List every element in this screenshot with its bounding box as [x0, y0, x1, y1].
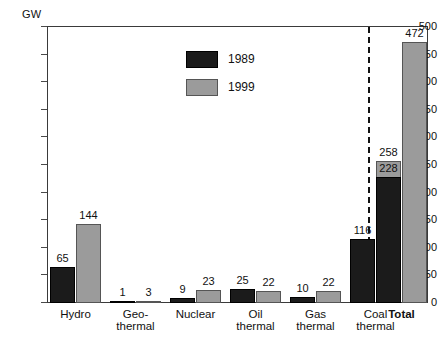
bar-1999-nuclear	[196, 290, 221, 303]
legend-item-1999: 1999	[186, 76, 255, 98]
bar-1999-hydro	[76, 224, 101, 303]
black-swatch-icon	[186, 51, 218, 68]
y-axis-tick	[41, 192, 47, 193]
y-axis-tick	[41, 54, 47, 55]
bar-1999-total	[402, 42, 427, 303]
bar-1999-oilthermal	[256, 291, 281, 303]
bar-1989-coalthermal	[350, 239, 375, 303]
gray-swatch-icon	[186, 79, 218, 96]
legend-label-1989: 1989	[228, 52, 255, 66]
bar-1989-nuclear	[170, 298, 195, 303]
y-axis-tick	[41, 136, 47, 137]
bar-value-label: 23	[190, 276, 227, 287]
bar-value-label: 22	[250, 277, 287, 288]
legend: 1989 1999	[186, 48, 255, 104]
y-axis-tick	[41, 81, 47, 82]
y-axis-unit-label: GW	[22, 8, 41, 20]
y-axis-tick	[41, 164, 47, 165]
bar-value-label: 144	[70, 210, 107, 221]
y-axis-tick	[41, 247, 47, 248]
bar-value-label: 472	[396, 28, 433, 39]
y-axis-tick	[41, 26, 47, 27]
bar-value-label: 3	[130, 287, 167, 298]
legend-item-1989: 1989	[186, 48, 255, 70]
bar-value-label: 22	[310, 277, 347, 288]
y-axis-tick	[41, 302, 47, 303]
y-axis-tick	[41, 274, 47, 275]
bar-1989-total	[376, 177, 401, 303]
bar-1999-gasthermal	[316, 291, 341, 303]
bar-1999-geothermal	[136, 301, 161, 303]
bar-1989-hydro	[50, 267, 75, 303]
x-axis-label-total: Total	[362, 308, 442, 320]
y-axis-tick	[41, 109, 47, 110]
bar-1989-geothermal	[110, 301, 135, 303]
legend-label-1999: 1999	[228, 80, 255, 94]
bar-1989-oilthermal	[230, 289, 255, 303]
y-axis-tick	[41, 219, 47, 220]
bar-1989-gasthermal	[290, 297, 315, 303]
